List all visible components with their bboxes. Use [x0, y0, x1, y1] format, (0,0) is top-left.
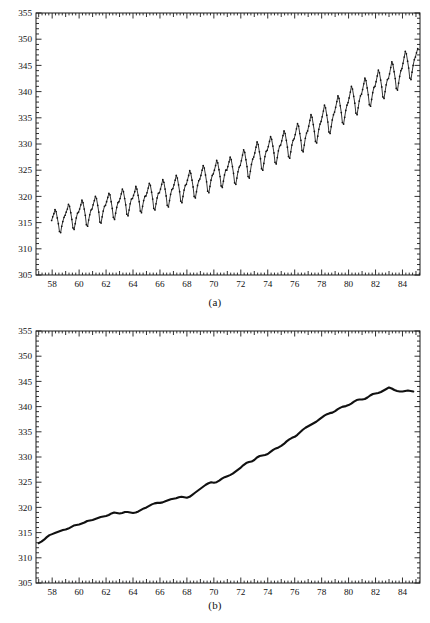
data-point	[402, 62, 404, 64]
data-point	[254, 152, 256, 154]
y-tick-label: 320	[18, 503, 32, 513]
data-point	[72, 227, 74, 229]
x-tick-label: 68	[182, 279, 192, 289]
data-point	[368, 104, 370, 106]
data-point	[212, 173, 214, 175]
data-point	[251, 164, 253, 166]
data-point	[81, 199, 83, 201]
co2-figure: 3053103153203253303353403453503555860626…	[0, 0, 430, 623]
data-point	[119, 198, 121, 200]
data-point	[324, 104, 326, 106]
data-point	[320, 121, 322, 123]
data-point	[128, 209, 130, 211]
data-point	[97, 204, 99, 206]
data-point	[166, 204, 168, 206]
data-point	[89, 214, 91, 216]
data-point	[100, 222, 102, 224]
data-point	[353, 95, 355, 97]
data-point	[143, 200, 145, 202]
x-tick-label: 78	[317, 587, 327, 597]
data-point	[138, 201, 140, 203]
data-point	[400, 70, 402, 72]
data-point	[358, 100, 360, 102]
data-point	[263, 163, 265, 165]
data-point	[200, 175, 202, 177]
data-point	[156, 197, 158, 199]
y-tick-label: 315	[18, 218, 32, 228]
data-point	[188, 175, 190, 177]
data-point	[282, 135, 284, 137]
data-point	[54, 209, 56, 211]
data-point	[69, 206, 71, 208]
data-point	[338, 98, 340, 100]
data-point	[187, 179, 189, 181]
data-point	[51, 220, 53, 222]
data-point	[62, 221, 64, 223]
data-point	[352, 88, 354, 90]
data-point	[122, 188, 124, 190]
data-point	[230, 159, 232, 161]
data-point	[168, 206, 170, 208]
data-point	[239, 165, 241, 167]
data-point	[272, 145, 274, 147]
data-point	[330, 126, 332, 128]
data-point	[285, 139, 287, 141]
data-point	[106, 201, 108, 203]
data-point	[307, 130, 309, 132]
data-point	[58, 223, 60, 225]
data-point	[92, 204, 94, 206]
data-point	[191, 179, 193, 181]
data-point	[392, 64, 394, 66]
data-point	[79, 208, 81, 210]
y-tick-label: 335	[18, 427, 32, 437]
data-point	[333, 114, 335, 116]
data-point	[52, 216, 54, 218]
data-point	[78, 211, 80, 213]
data-point	[413, 59, 415, 61]
data-point	[243, 149, 245, 151]
data-point	[290, 151, 292, 153]
data-point	[98, 211, 100, 213]
data-point	[123, 191, 125, 193]
x-tick-label: 60	[75, 587, 85, 597]
data-point	[370, 105, 372, 107]
data-point	[234, 182, 236, 184]
data-point	[327, 121, 329, 123]
data-point	[53, 213, 55, 215]
plot-frame	[36, 331, 420, 583]
data-point	[381, 86, 383, 88]
data-point	[84, 214, 86, 216]
data-point	[112, 217, 114, 219]
data-point	[139, 210, 141, 212]
y-tick-label: 355	[18, 326, 32, 336]
data-point	[331, 119, 333, 121]
data-point	[242, 154, 244, 156]
data-point	[56, 217, 58, 219]
data-point	[367, 94, 369, 96]
y-tick-label: 320	[18, 192, 32, 202]
data-point	[68, 203, 70, 205]
data-point	[163, 181, 165, 183]
data-point	[88, 219, 90, 221]
data-point	[248, 177, 250, 179]
data-point	[293, 138, 295, 140]
data-point	[206, 181, 208, 183]
data-point	[201, 169, 203, 171]
data-point	[108, 192, 110, 194]
data-point	[211, 175, 213, 177]
data-point	[233, 172, 235, 174]
x-tick-label: 76	[290, 279, 300, 289]
data-point	[376, 75, 378, 77]
data-point	[155, 203, 157, 205]
x-tick-label: 76	[290, 587, 300, 597]
data-point	[141, 212, 143, 214]
data-point	[125, 204, 127, 206]
data-point	[266, 149, 268, 151]
data-point	[384, 91, 386, 93]
data-point	[274, 161, 276, 163]
data-point	[310, 114, 312, 116]
data-point	[372, 92, 374, 94]
data-point	[227, 166, 229, 168]
data-point	[270, 136, 272, 138]
data-point	[292, 139, 294, 141]
